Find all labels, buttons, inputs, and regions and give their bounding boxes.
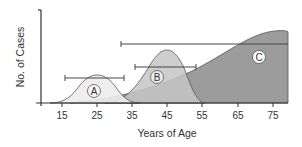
svg-text:55: 55 <box>196 110 208 121</box>
label-a: A <box>88 85 101 98</box>
svg-text:A: A <box>91 86 98 97</box>
svg-text:B: B <box>154 72 161 83</box>
label-b: B <box>151 71 164 84</box>
svg-text:65: 65 <box>232 110 244 121</box>
y-axis <box>38 10 41 106</box>
label-c: C <box>253 51 266 64</box>
x-axis-label: Years of Age <box>137 127 196 139</box>
svg-text:25: 25 <box>91 110 103 121</box>
svg-text:15: 15 <box>56 110 68 121</box>
svg-text:45: 45 <box>161 110 173 121</box>
svg-text:35: 35 <box>126 110 138 121</box>
y-axis-label: No. of Cases <box>14 27 26 88</box>
x-tick-labels: 15 25 35 45 55 65 75 <box>56 110 279 121</box>
svg-text:C: C <box>255 52 262 63</box>
age-distribution-chart: A B C 15 25 35 45 55 65 75 Years of Age … <box>0 0 302 147</box>
svg-text:75: 75 <box>267 110 279 121</box>
